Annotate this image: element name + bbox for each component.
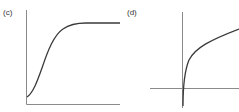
panel-d-log-curve [183, 29, 239, 106]
charts-canvas [0, 0, 239, 112]
panel-c-chart [27, 10, 121, 105]
panel-c-sigmoid-curve [27, 23, 120, 97]
panel-d-chart [150, 12, 239, 108]
